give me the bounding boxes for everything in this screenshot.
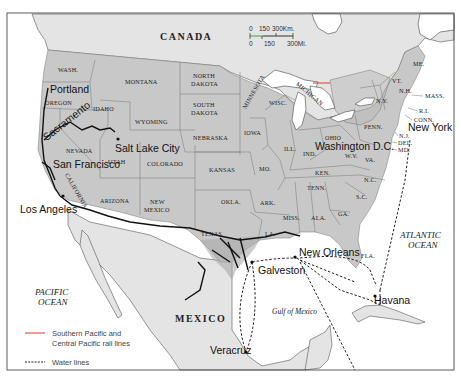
label-atlantic-1: ATLANTIC [399, 230, 442, 240]
state-md: MD. [398, 146, 410, 153]
state-new-mexico-2: MEXICO [144, 206, 170, 213]
state-wash: WASH. [58, 66, 78, 73]
state-south-dakota-2: DAKOTA [191, 109, 218, 116]
state-wv: W.V. [345, 152, 358, 159]
label-canada: CANADA [160, 31, 212, 42]
city-san-francisco: San Francisco [53, 158, 120, 170]
legend-water-label: Water lines [52, 358, 89, 367]
state-ala: ALA. [311, 214, 326, 221]
us-map: CANADA MEXICO PACIFIC OCEAN ATLANTIC OCE… [0, 0, 460, 382]
state-tenn: TENN. [307, 184, 326, 191]
label-atlantic-2: OCEAN [408, 240, 438, 250]
city-galveston: Galveston [258, 264, 305, 276]
state-north-dakota-1: NORTH [193, 72, 215, 79]
state-oregon: OREGON [45, 99, 72, 106]
state-ri: R.I. [419, 107, 429, 114]
city-veracruz: Veracruz [210, 344, 251, 356]
city-washington-dc: Washington D.C. [315, 140, 394, 152]
state-new-mexico-1: NEW [150, 198, 165, 205]
scale-km-300: 300Km. [272, 25, 295, 32]
state-south-dakota-1: SOUTH [193, 101, 215, 108]
scale-mi-150: 150 [264, 40, 275, 47]
state-texas: TEXAS [201, 230, 222, 237]
city-new-orleans: New Orleans [299, 246, 360, 258]
label-pacific-2: OCEAN [38, 297, 68, 307]
state-mass: MASS. [425, 92, 445, 99]
state-colorado: COLORADO [147, 160, 183, 167]
state-wisc: WISC. [269, 99, 287, 106]
state-montana: MONTANA [125, 78, 158, 85]
state-va: VA. [365, 156, 376, 163]
state-miss: MISS. [283, 214, 300, 221]
state-nc: N.C. [364, 176, 377, 183]
scale-km-0: 0 [249, 25, 253, 32]
city-havana: Havana [374, 294, 410, 306]
state-vt: VT. [392, 77, 402, 84]
state-ken: KEN. [315, 169, 330, 176]
state-fla: FLA. [361, 252, 375, 259]
state-arizona: ARIZONA [100, 197, 130, 204]
state-la: LA. [265, 230, 276, 237]
state-ny: N.Y. [376, 97, 388, 104]
scale-km-150: 150 [259, 25, 270, 32]
state-penn: PENN. [364, 123, 383, 130]
state-idaho: IDAHO [93, 105, 114, 112]
state-nj: N.J. [399, 132, 410, 139]
state-north-dakota-2: DAKOTA [191, 80, 218, 87]
state-ill: ILL. [284, 145, 296, 152]
label-pacific-1: PACIFIC [34, 287, 69, 297]
state-nevada: NEVADA [66, 147, 93, 154]
city-salt-lake-city: Salt Lake City [115, 142, 181, 154]
state-nh: N.H. [399, 87, 412, 94]
state-del: DEL. [398, 139, 413, 146]
scale-mi-0: 0 [249, 40, 253, 47]
scale-mi-300: 300Mi. [287, 40, 307, 47]
state-ga: GA. [338, 210, 349, 217]
state-mo: MO. [259, 165, 271, 172]
legend-rail-label-1: Southern Pacific and [52, 329, 121, 338]
city-portland: Portland [50, 83, 89, 95]
state-sc: S.C. [356, 193, 368, 200]
city-new-york: New York [408, 121, 453, 133]
state-kansas: KANSAS [209, 166, 235, 173]
label-mexico: MEXICO [175, 313, 226, 324]
state-wyoming: WYOMING [135, 118, 168, 125]
state-iowa: IOWA [244, 129, 261, 136]
state-ark: ARK. [260, 199, 276, 206]
city-los-angeles: Los Angeles [20, 203, 77, 215]
label-gulf-of-mexico: Gulf of Mexico [272, 307, 317, 316]
legend-rail-label-2: Central Pacific rail lines [52, 339, 130, 348]
state-nebraska: NEBRASKA [193, 134, 228, 141]
state-okla: OKLA. [221, 198, 241, 205]
state-me: ME. [413, 60, 425, 67]
